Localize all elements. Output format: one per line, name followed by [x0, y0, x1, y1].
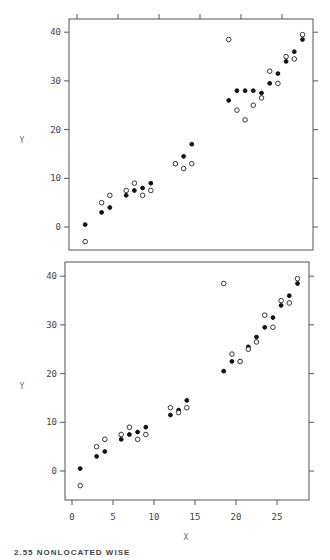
filled-data-point: [141, 186, 145, 190]
filled-data-point: [301, 38, 305, 42]
filled-data-point: [251, 89, 255, 93]
x-tick-label: 15: [190, 512, 201, 522]
y-tick-label: 30: [50, 76, 61, 86]
filled-data-point: [95, 454, 99, 458]
filled-data-point: [284, 60, 288, 64]
open-data-point: [94, 444, 99, 449]
filled-data-point: [263, 325, 267, 329]
filled-data-point: [279, 304, 283, 308]
filled-data-point: [108, 206, 112, 210]
filled-data-point: [182, 154, 186, 158]
filled-data-point: [287, 294, 291, 298]
filled-data-point: [124, 193, 128, 197]
y-axis-label: Y: [20, 382, 25, 391]
y-tick-label: 40: [50, 27, 61, 37]
open-data-point: [259, 96, 264, 101]
scatter-chart-figure: 010203040Y 0102030400510152025YX: [0, 0, 330, 560]
filled-data-point: [230, 360, 234, 364]
open-data-point: [132, 181, 137, 186]
open-data-point: [103, 437, 108, 442]
filled-data-point: [190, 142, 194, 146]
open-data-point: [230, 352, 235, 357]
open-data-point: [262, 313, 267, 318]
open-data-point: [135, 437, 140, 442]
filled-data-point: [133, 189, 137, 193]
open-data-point: [295, 276, 300, 281]
filled-data-point: [276, 72, 280, 76]
open-data-point: [251, 103, 256, 108]
open-data-point: [235, 108, 240, 113]
open-data-point: [127, 425, 132, 430]
filled-data-point: [292, 50, 296, 54]
plot-frame: [65, 262, 309, 500]
open-data-point: [119, 432, 124, 437]
filled-data-point: [119, 437, 123, 441]
y-tick-label: 30: [46, 320, 57, 330]
plot-frame: [69, 19, 313, 250]
open-data-point: [254, 340, 259, 345]
filled-data-point: [227, 98, 231, 102]
open-data-point: [279, 298, 284, 303]
open-data-point: [267, 69, 272, 74]
open-data-point: [300, 32, 305, 37]
filled-data-point: [100, 210, 104, 214]
filled-data-point: [235, 89, 239, 93]
open-data-point: [124, 188, 129, 193]
open-data-point: [108, 193, 113, 198]
filled-data-point: [103, 450, 107, 454]
filled-data-point: [268, 81, 272, 85]
open-data-point: [190, 161, 195, 166]
x-tick-label: 20: [231, 512, 242, 522]
x-tick-label: 25: [272, 512, 283, 522]
filled-data-point: [169, 413, 173, 417]
open-data-point: [221, 281, 226, 286]
y-tick-label: 20: [46, 369, 57, 379]
x-axis-label: X: [184, 533, 189, 542]
filled-data-point: [149, 181, 153, 185]
filled-data-point: [255, 335, 259, 339]
open-data-point: [181, 166, 186, 171]
open-data-point: [78, 483, 83, 488]
open-data-point: [243, 118, 248, 123]
x-tick-label: 10: [149, 512, 160, 522]
filled-data-point: [127, 433, 131, 437]
x-tick-label: 5: [110, 512, 115, 522]
filled-data-point: [260, 91, 264, 95]
y-tick-label: 0: [52, 466, 57, 476]
open-data-point: [185, 405, 190, 410]
y-tick-label: 0: [56, 222, 61, 232]
y-tick-label: 20: [50, 125, 61, 135]
open-data-point: [149, 188, 154, 193]
filled-data-point: [296, 282, 300, 286]
filled-data-point: [78, 467, 82, 471]
figure-caption: 2.55 NONLOCATED WISE: [14, 548, 130, 557]
open-data-point: [173, 161, 178, 166]
filled-data-point: [185, 398, 189, 402]
open-data-point: [144, 432, 149, 437]
filled-data-point: [243, 89, 247, 93]
y-tick-label: 10: [50, 173, 61, 183]
open-data-point: [271, 325, 276, 330]
open-data-point: [226, 37, 231, 42]
filled-data-point: [144, 425, 148, 429]
open-data-point: [292, 57, 297, 62]
open-data-point: [284, 54, 289, 59]
open-data-point: [168, 405, 173, 410]
y-axis-label: Y: [20, 136, 25, 145]
filled-data-point: [222, 369, 226, 373]
x-tick-label: 0: [69, 512, 74, 522]
open-data-point: [176, 410, 181, 415]
open-data-point: [140, 193, 145, 198]
open-data-point: [83, 239, 88, 244]
open-data-point: [238, 359, 243, 364]
filled-data-point: [83, 223, 87, 227]
open-data-point: [246, 347, 251, 352]
open-data-point: [276, 81, 281, 86]
top-scatter-panel: 010203040Y: [20, 14, 318, 250]
bottom-scatter-panel: 0102030400510152025YX: [20, 262, 314, 542]
y-tick-label: 10: [46, 417, 57, 427]
y-tick-label: 40: [46, 271, 57, 281]
open-data-point: [287, 301, 292, 306]
filled-data-point: [136, 430, 140, 434]
filled-data-point: [271, 316, 275, 320]
